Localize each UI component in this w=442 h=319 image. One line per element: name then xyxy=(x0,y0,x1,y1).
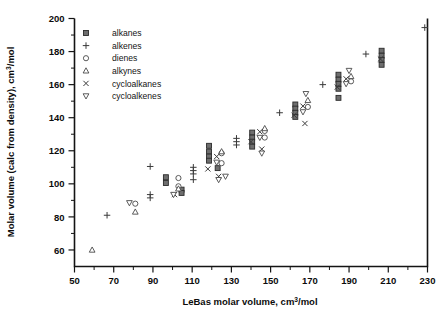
y-tick-label: 180 xyxy=(49,46,65,57)
y-tick-label: 200 xyxy=(49,13,65,24)
x-tick-label: 110 xyxy=(185,275,200,286)
x-tick-label: 130 xyxy=(223,275,239,286)
legend-label-cycloalkanes: cycloalkanes xyxy=(112,79,161,89)
x-tick-label: 70 xyxy=(108,275,119,286)
y-tick-label: 160 xyxy=(49,79,65,90)
scatter-chart-figure: 507090110130150170190210230 608010012014… xyxy=(0,0,442,319)
y-tick-label: 60 xyxy=(54,245,65,256)
y-tick-label: 140 xyxy=(49,112,65,123)
legend-label-alkynes: alkynes xyxy=(112,66,141,76)
legend-label-dienes: dienes xyxy=(112,53,137,63)
x-tick-label: 190 xyxy=(341,275,357,286)
data-point-dienes xyxy=(219,161,224,166)
y-tick-label: 120 xyxy=(49,145,65,156)
data-point-alkanes xyxy=(336,72,341,77)
data-point-alkanes xyxy=(379,62,384,67)
data-point-alkanes xyxy=(250,144,255,149)
chart-canvas: 507090110130150170190210230 608010012014… xyxy=(0,0,442,319)
x-axis-title: LeBas molar volume, cm3/mol xyxy=(182,296,317,307)
data-point-alkanes xyxy=(379,48,384,53)
data-point-alkanes xyxy=(215,166,220,171)
x-tick-label: 90 xyxy=(148,275,159,286)
chart-background xyxy=(0,0,442,319)
x-tick-label: 150 xyxy=(263,275,279,286)
data-point-dienes xyxy=(133,201,138,206)
y-tick-label: 100 xyxy=(49,178,65,189)
data-point-alkanes xyxy=(207,143,212,148)
data-point-alkanes xyxy=(207,158,212,163)
legend-label-alkenes: alkenes xyxy=(112,41,142,51)
legend-label-cycloalkenes: cycloalkenes xyxy=(112,91,161,101)
data-point-dienes xyxy=(176,175,181,180)
data-point-alkanes xyxy=(207,149,212,154)
legend-marker-dienes xyxy=(83,56,88,61)
data-point-alkanes xyxy=(336,95,341,100)
x-tick-label: 170 xyxy=(302,275,318,286)
x-tick-label: 210 xyxy=(380,275,396,286)
y-axis-title: Molar volume (calc from density), cm3/mo… xyxy=(5,47,16,238)
legend-marker-alkanes xyxy=(84,31,89,36)
legend-label-alkanes: alkanes xyxy=(112,28,142,38)
x-tick-label: 230 xyxy=(420,275,436,286)
x-tick-label: 50 xyxy=(69,275,80,286)
data-point-dienes xyxy=(305,104,310,109)
data-point-alkanes xyxy=(250,130,255,135)
data-point-alkanes xyxy=(163,175,168,180)
y-tick-label: 80 xyxy=(54,212,65,223)
data-point-alkanes xyxy=(163,181,168,186)
